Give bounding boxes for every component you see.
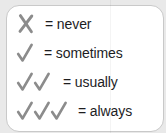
legend-row: = sometimes: [15, 39, 159, 67]
legend-row-label: = never: [45, 17, 91, 31]
cross-icon: [16, 12, 36, 36]
legend-mark-group-never: [15, 10, 38, 38]
legend-row-label: = always: [78, 104, 132, 118]
check-icon: [49, 99, 69, 123]
legend-mark-group-usually: [15, 68, 52, 96]
legend-card: = never = sometimes = usually: [6, 5, 164, 132]
legend-row: = usually: [15, 68, 159, 96]
legend-mark-group-sometimes: [15, 39, 35, 67]
legend-row: = never: [15, 10, 159, 38]
legend-row: = always: [15, 97, 159, 125]
legend-mark-group-always: [15, 97, 69, 125]
check-icon: [15, 41, 35, 65]
page-fold-line: [110, 0, 111, 133]
check-icon: [32, 70, 52, 94]
legend-row-list: = never = sometimes = usually: [7, 6, 163, 131]
